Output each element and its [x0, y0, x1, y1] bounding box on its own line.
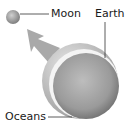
earth-label: Earth — [95, 8, 125, 20]
moon-sphere — [6, 10, 20, 24]
earth-sphere — [53, 53, 119, 119]
earth-moon-tides-diagram: Moon Earth Oceans — [0, 0, 130, 132]
moon-label: Moon — [51, 8, 81, 20]
oceans-label: Oceans — [5, 111, 46, 123]
